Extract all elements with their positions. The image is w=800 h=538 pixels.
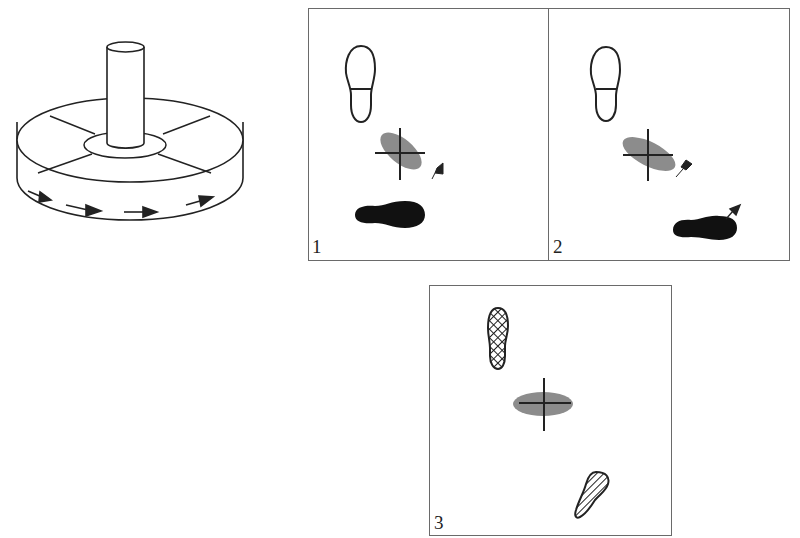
- rotating-platform-diagram: [0, 30, 260, 250]
- foot-rotation-arrow-icon: [726, 205, 740, 219]
- striped-footprint-icon: [575, 472, 608, 518]
- crosshair-icon: [623, 129, 673, 181]
- outline-footprint-icon: [591, 47, 620, 121]
- panel-label: 2: [553, 237, 563, 256]
- panel-2: 2: [548, 8, 790, 261]
- crosshatched-footprint-icon: [488, 308, 508, 369]
- solid-footprint-icon: [355, 201, 425, 228]
- panel-3: 3: [429, 285, 672, 536]
- small-arrow-icon: [432, 163, 443, 179]
- panel-label: 3: [434, 513, 444, 532]
- solid-footprint-icon: [673, 216, 737, 240]
- small-arrow-icon: [676, 160, 692, 177]
- panel-1: 1: [308, 8, 550, 261]
- panel-label: 1: [312, 237, 322, 256]
- outline-footprint-icon: [346, 46, 375, 122]
